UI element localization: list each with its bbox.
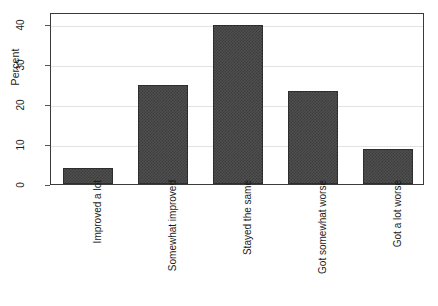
y-tick-label: 40 [15,8,27,42]
y-tick-label: 30 [15,48,27,82]
bar [363,149,413,184]
bar [213,25,263,184]
bars-group [51,14,423,184]
x-category-label: Stayed the same [242,180,255,300]
x-category-label: Got a lot worse [392,180,405,300]
bar [288,91,338,184]
y-tick-label: 0 [15,168,27,202]
x-category-label: Somewhat improved [167,180,180,300]
bar [138,85,188,184]
y-tick-mark [45,185,50,186]
y-tick-label: 10 [15,128,27,162]
x-category-label: Improved a lot [92,180,105,300]
y-tick-label: 20 [15,88,27,122]
bar [63,168,113,184]
plot-area [50,13,424,185]
x-category-label: Got somewhat worse [317,180,330,300]
bar-chart: Percent 010203040 Improved a lotSomewhat… [0,0,438,306]
